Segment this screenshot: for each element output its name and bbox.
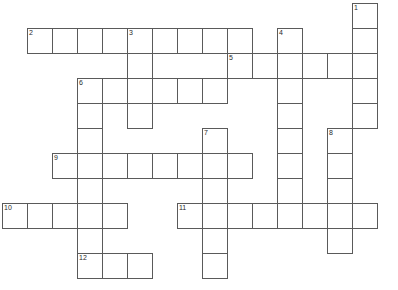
crossword-cell[interactable] <box>127 78 153 104</box>
crossword-cell[interactable] <box>77 153 103 179</box>
crossword-cell[interactable] <box>177 153 203 179</box>
crossword-cell[interactable] <box>327 178 353 204</box>
crossword-cell[interactable] <box>52 203 78 229</box>
crossword-cell[interactable] <box>277 53 303 79</box>
crossword-cell[interactable] <box>302 53 328 79</box>
cell-number-11: 11 <box>179 204 186 212</box>
crossword-cell[interactable]: 7 <box>202 128 228 154</box>
crossword-cell[interactable] <box>102 253 128 279</box>
crossword-cell[interactable]: 3 <box>127 28 153 54</box>
crossword-cell[interactable] <box>327 153 353 179</box>
crossword-cell[interactable] <box>277 128 303 154</box>
crossword-cell[interactable]: 9 <box>52 153 78 179</box>
crossword-cell[interactable] <box>127 103 153 129</box>
cell-number-7: 7 <box>204 129 208 137</box>
cell-number-9: 9 <box>54 154 58 162</box>
crossword-cell[interactable] <box>202 28 228 54</box>
crossword-cell[interactable] <box>202 153 228 179</box>
crossword-cell[interactable] <box>127 153 153 179</box>
crossword-cell[interactable] <box>77 28 103 54</box>
crossword-cell[interactable] <box>277 78 303 104</box>
crossword-cell[interactable]: 6 <box>77 78 103 104</box>
crossword-cell[interactable] <box>277 153 303 179</box>
crossword-cell[interactable] <box>352 78 378 104</box>
crossword-cell[interactable] <box>327 203 353 229</box>
cell-number-8: 8 <box>329 129 333 137</box>
crossword-cell[interactable] <box>352 28 378 54</box>
crossword-cell[interactable] <box>102 203 128 229</box>
crossword-cell[interactable] <box>227 153 253 179</box>
crossword-cell[interactable] <box>277 178 303 204</box>
crossword-cell[interactable] <box>102 153 128 179</box>
cell-number-2: 2 <box>29 29 33 37</box>
crossword-cell[interactable]: 4 <box>277 28 303 54</box>
crossword-cell[interactable] <box>77 128 103 154</box>
crossword-cell[interactable] <box>302 203 328 229</box>
crossword-cell[interactable] <box>102 28 128 54</box>
crossword-cell[interactable] <box>202 78 228 104</box>
crossword-cell[interactable] <box>27 203 53 229</box>
crossword-cell[interactable] <box>202 203 228 229</box>
crossword-cell[interactable] <box>352 53 378 79</box>
crossword-cell[interactable] <box>152 28 178 54</box>
crossword-cell[interactable] <box>252 53 278 79</box>
crossword-cell[interactable]: 8 <box>327 128 353 154</box>
crossword-cell[interactable] <box>202 228 228 254</box>
crossword-cell[interactable] <box>252 203 278 229</box>
crossword-cell[interactable] <box>177 78 203 104</box>
crossword-cell[interactable] <box>277 103 303 129</box>
crossword-cell[interactable] <box>77 178 103 204</box>
crossword-cell[interactable] <box>152 78 178 104</box>
crossword-cell[interactable] <box>102 78 128 104</box>
cell-number-5: 5 <box>229 54 233 62</box>
crossword-cell[interactable]: 5 <box>227 53 253 79</box>
crossword-cell[interactable] <box>52 28 78 54</box>
cell-number-6: 6 <box>79 79 83 87</box>
crossword-cell[interactable] <box>327 53 353 79</box>
crossword-cell[interactable]: 2 <box>27 28 53 54</box>
crossword-cell[interactable] <box>202 178 228 204</box>
cell-number-10: 10 <box>4 204 12 212</box>
crossword-cell[interactable] <box>152 153 178 179</box>
crossword-cell[interactable]: 10 <box>2 203 28 229</box>
crossword-cell[interactable] <box>77 228 103 254</box>
crossword-cell[interactable] <box>277 203 303 229</box>
crossword-cell[interactable] <box>352 103 378 129</box>
crossword-cell[interactable] <box>77 203 103 229</box>
crossword-cell[interactable]: 11 <box>177 203 203 229</box>
cell-number-4: 4 <box>279 29 283 37</box>
cell-number-3: 3 <box>129 29 133 37</box>
crossword-cell[interactable] <box>227 28 253 54</box>
crossword-grid: 123456789101112 <box>0 0 398 290</box>
cell-number-1: 1 <box>354 4 358 12</box>
crossword-cell[interactable] <box>127 53 153 79</box>
crossword-cell[interactable] <box>352 203 378 229</box>
crossword-cell[interactable] <box>202 253 228 279</box>
crossword-cell[interactable]: 1 <box>352 3 378 29</box>
crossword-cell[interactable] <box>77 103 103 129</box>
crossword-cell[interactable]: 12 <box>77 253 103 279</box>
cell-number-12: 12 <box>79 254 87 262</box>
crossword-cell[interactable] <box>177 28 203 54</box>
crossword-cell[interactable] <box>327 228 353 254</box>
crossword-cell[interactable] <box>227 203 253 229</box>
crossword-cell[interactable] <box>127 253 153 279</box>
